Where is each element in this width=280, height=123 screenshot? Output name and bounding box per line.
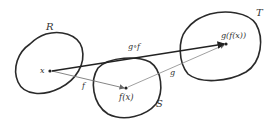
arrow-f-label: f: [81, 81, 87, 90]
set-s-label: S: [156, 98, 163, 109]
point-fx-label: f(x): [118, 92, 134, 102]
point-x: [48, 69, 51, 72]
set-r-label: R: [45, 21, 54, 32]
arrow-f: [52, 71, 124, 88]
point-fx: [124, 86, 127, 89]
composition-diagram: R S T x f(x) g(f(x)) f g g∘f: [0, 0, 280, 123]
set-t-label: T: [256, 7, 264, 18]
set-r-outline: [16, 33, 83, 94]
point-gfx-label: g(f(x)): [221, 31, 246, 40]
arrow-gof-label: g∘f: [128, 42, 142, 51]
point-x-label: x: [40, 66, 45, 75]
point-gfx: [224, 42, 227, 45]
arrow-g-label: g: [170, 68, 175, 77]
